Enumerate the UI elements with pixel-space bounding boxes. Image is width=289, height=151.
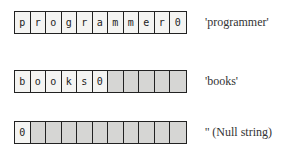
string-array-null: 0 [14,121,187,144]
char-cell: g [62,12,78,33]
empty-cell [155,122,171,143]
empty-cell [77,122,93,143]
empty-cell [170,71,186,92]
string-array-books: b o o k s 0 [14,70,187,93]
char-cell: r [77,12,93,33]
empty-cell [93,122,109,143]
char-cell: b [15,71,31,92]
char-cell: o [31,71,47,92]
empty-cell [139,71,155,92]
char-cell: m [108,12,124,33]
empty-cell [155,71,171,92]
char-cell: k [62,71,78,92]
null-terminator-cell: 0 [15,122,31,143]
string-array-programmer: p r o g r a m m e r 0 [14,11,187,34]
empty-cell [139,122,155,143]
char-cell: p [15,12,31,33]
null-terminator-cell: 0 [170,12,186,33]
char-cell: o [46,12,62,33]
char-cell: r [155,12,171,33]
empty-cell [46,122,62,143]
string-label-null: '' (Null string) [205,125,272,140]
string-label-books: 'books' [205,74,238,89]
string-label-programmer: 'programmer' [205,15,269,30]
empty-cell [124,122,140,143]
char-cell: s [77,71,93,92]
empty-cell [31,122,47,143]
char-cell: r [31,12,47,33]
empty-cell [108,71,124,92]
empty-cell [170,122,186,143]
empty-cell [108,122,124,143]
empty-cell [124,71,140,92]
empty-cell [62,122,78,143]
null-terminator-cell: 0 [93,71,109,92]
char-cell: e [139,12,155,33]
char-cell: a [93,12,109,33]
char-cell: o [46,71,62,92]
char-cell: m [124,12,140,33]
